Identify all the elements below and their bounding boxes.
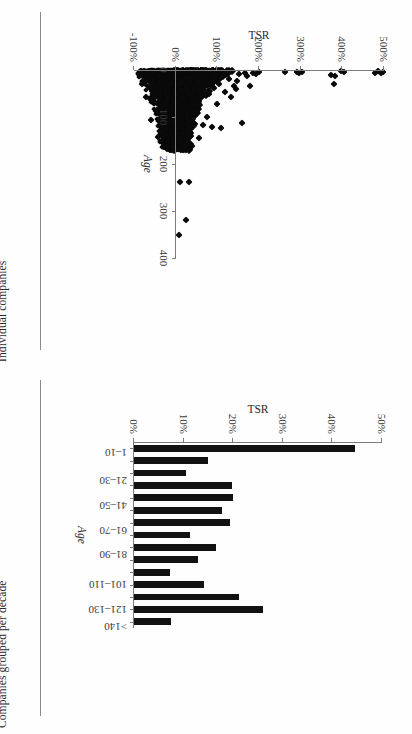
scatter-axis-title-tsr: TSR (248, 29, 269, 41)
bar-tsr-tick-label: 50% (376, 390, 388, 434)
bar-column (134, 470, 186, 477)
panel-divider-rule (40, 380, 41, 716)
bar-age-tick (130, 473, 134, 474)
bar-column (134, 618, 171, 625)
bar-age-tick (130, 448, 134, 449)
scatter-tsr-tick-label: 500% (378, 18, 390, 62)
bar-column (134, 594, 239, 601)
bar-tsr-tick (133, 438, 134, 442)
bar-tsr-tick-label: 0% (128, 390, 140, 434)
bar-age-tick (130, 535, 134, 536)
bar-column (134, 532, 190, 539)
bar-column (134, 556, 199, 563)
scatter-point (186, 178, 193, 185)
scatter-age-tick-label: 400 (158, 250, 170, 267)
bar-age-tick (130, 523, 134, 524)
bar-age-tick (130, 560, 134, 561)
scatter-tsr-tick (300, 66, 301, 70)
bar-age-tick-label: 41–50 (100, 500, 128, 512)
bar-column (134, 519, 230, 526)
bar-tsr-tick (232, 438, 233, 442)
bar-column (134, 544, 216, 551)
bar-y-axis-line (134, 442, 382, 443)
scatter-age-tick (172, 117, 176, 118)
bar-age-tick-label: >140 (104, 621, 127, 633)
panel-caption-companies-grouped-per-decade: Companies grouped per decade (0, 581, 8, 728)
scatter-point (183, 217, 190, 224)
scatter-point (330, 81, 337, 88)
scatter-point (177, 178, 184, 185)
bar-column (134, 581, 204, 588)
bar-tsr-tick-label: 10% (178, 390, 190, 434)
bar-age-tick (130, 485, 134, 486)
bar-age-tick-label: 101–110 (89, 579, 127, 591)
bar-axis-title-tsr: TSR (247, 403, 268, 415)
bar-age-tick (130, 572, 134, 573)
scatter-chart: 500%400%300%200%100%0%-100%0100200300400… (92, 18, 392, 268)
bar-chart: 0%10%20%30%40%50%1–1021–3041–5061–7081–9… (92, 390, 392, 640)
scatter-age-tick (172, 211, 176, 212)
bar-age-tick (130, 498, 134, 499)
bar-column (134, 606, 263, 613)
panel-caption-individual-companies: Individual companies (0, 261, 8, 362)
bar-tsr-tick (183, 438, 184, 442)
bar-age-tick-label: 81–90 (100, 549, 128, 561)
bar-age-tick (130, 585, 134, 586)
scatter-tsr-tick (258, 66, 259, 70)
scatter-tsr-tick-label: 0% (170, 18, 182, 62)
bar-age-tick-label: 21–30 (100, 475, 128, 487)
bar-tsr-tick (331, 438, 332, 442)
scatter-age-tick (172, 70, 176, 71)
scatter-point (147, 116, 154, 123)
bar-age-tick (130, 547, 134, 548)
scatter-tsr-tick (133, 66, 134, 70)
scatter-point (176, 231, 183, 238)
scatter-tsr-tick (216, 66, 217, 70)
scatter-point (200, 121, 207, 128)
panel-divider-rule (40, 12, 41, 350)
bar-tsr-tick-label: 40% (326, 390, 338, 434)
scatter-point (203, 113, 210, 120)
bar-column (134, 569, 170, 576)
bar-tsr-tick-label: 30% (277, 390, 289, 434)
bar-column (134, 494, 233, 501)
scatter-tsr-tick-label: 300% (295, 18, 307, 62)
bar-column (134, 445, 355, 452)
panel-companies-per-decade: Companies grouped per decade 0%10%20%30%… (0, 368, 412, 734)
panel-individual-companies: Individual companies 500%400%300%200%100… (0, 0, 412, 368)
scatter-point (238, 119, 245, 126)
scatter-point (208, 123, 215, 130)
scatter-axis-title-age: Age (142, 155, 154, 173)
scatter-age-tick-label: 0 (158, 67, 170, 73)
scatter-age-tick-label: 300 (158, 203, 170, 220)
bar-age-tick (130, 597, 134, 598)
scatter-tsr-tick (383, 66, 384, 70)
bar-age-tick-label: 121–130 (89, 604, 128, 616)
scatter-point (247, 82, 254, 89)
bar-age-tick (130, 609, 134, 610)
bar-age-tick-label: 61–70 (100, 524, 128, 536)
bar-plot-area (134, 442, 382, 628)
scatter-tsr-tick (341, 66, 342, 70)
bar-age-tick (130, 461, 134, 462)
scatter-age-tick-label: 200 (158, 156, 170, 173)
scatter-tsr-tick-label: 400% (336, 18, 348, 62)
bar-column (134, 507, 222, 514)
scatter-age-tick-label: 100 (158, 109, 170, 126)
bar-column (134, 482, 232, 489)
bar-age-tick (130, 510, 134, 511)
bar-axis-title-age: Age (76, 526, 88, 544)
bar-tsr-tick-label: 20% (227, 390, 239, 434)
scatter-tsr-tick-label: 100% (211, 18, 223, 62)
bar-column (134, 457, 208, 464)
scatter-point (196, 135, 203, 142)
figure-page: Individual companies 500%400%300%200%100… (0, 0, 412, 734)
scatter-point (222, 88, 229, 95)
bar-tsr-tick (381, 438, 382, 442)
bar-age-tick-label: 1–10 (105, 447, 127, 459)
scatter-point (218, 125, 225, 132)
bar-age-tick (130, 622, 134, 623)
scatter-tsr-tick-label: -100% (128, 18, 140, 62)
scatter-age-tick (172, 258, 176, 259)
bar-tsr-tick (282, 438, 283, 442)
